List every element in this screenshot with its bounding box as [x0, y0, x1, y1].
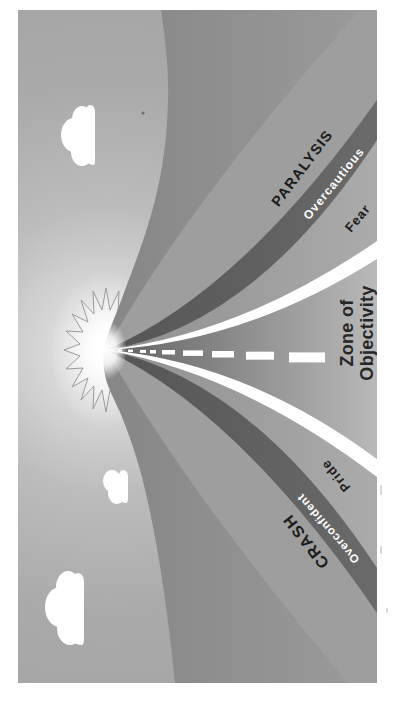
label-zone-line1: Zone of	[337, 299, 357, 367]
sun-core	[85, 320, 127, 380]
speck	[141, 111, 144, 114]
objectivity-diagram: PARALYSIS Overcautious Fear Zone of Obje…	[18, 10, 377, 683]
diagram-rotated-canvas: PARALYSIS Overcautious Fear Zone of Obje…	[18, 10, 377, 683]
scan-artifact	[386, 608, 388, 613]
scan-artifact	[380, 546, 382, 554]
page: PARALYSIS Overcautious Fear Zone of Obje…	[0, 0, 394, 705]
diagram-svg: PARALYSIS Overcautious Fear Zone of Obje…	[18, 10, 377, 683]
label-zone-line2: Objectivity	[357, 285, 377, 380]
scan-artifact	[380, 485, 382, 495]
